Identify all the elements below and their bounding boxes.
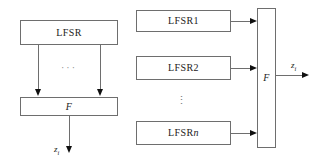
right-register-ellipsis: ⋮ xyxy=(176,95,187,106)
right-lfsr-label-n: LFSRn xyxy=(168,128,199,138)
right-lfsr-name-1: LFSR xyxy=(168,15,194,26)
right-feed-line-1 xyxy=(231,21,252,22)
right-output-line xyxy=(276,75,304,76)
left-output-label: zi xyxy=(54,145,59,156)
right-lfsr-box-n[interactable]: LFSRn xyxy=(136,121,231,145)
right-output-subscript: i xyxy=(295,65,297,72)
left-lfsr-box[interactable]: LFSR xyxy=(20,20,118,45)
right-lfsr-box-2[interactable]: LFSR2 xyxy=(136,56,231,80)
right-lfsr-box-1[interactable]: LFSR1 xyxy=(136,10,231,32)
diagram-canvas: LFSR ··· F zi LFSR1 LFSR2 xyxy=(0,0,320,166)
right-feed-arrowhead-n xyxy=(250,130,257,136)
right-output-arrowhead xyxy=(302,72,309,78)
left-tap-line-2 xyxy=(100,45,101,90)
left-lfsr-label: LFSR xyxy=(56,28,82,38)
right-output-label: zi xyxy=(291,61,296,72)
left-output-arrowhead xyxy=(66,146,72,153)
left-tap-arrowhead-1 xyxy=(35,89,41,96)
right-lfsr-name-2: LFSR xyxy=(168,62,194,73)
right-lfsr-index-2: 2 xyxy=(194,62,199,73)
left-output-line xyxy=(69,116,70,147)
right-combiner-label: F xyxy=(263,73,270,83)
left-combiner-box[interactable]: F xyxy=(20,97,118,116)
left-tap-ellipsis: ··· xyxy=(61,63,77,73)
right-lfsr-index-1: 1 xyxy=(194,15,199,26)
right-feed-arrowhead-2 xyxy=(250,65,257,71)
right-lfsr-label-2: LFSR2 xyxy=(168,63,199,73)
right-feed-arrowhead-1 xyxy=(250,18,257,24)
left-combiner-label: F xyxy=(66,102,73,112)
left-tap-line-1 xyxy=(38,45,39,90)
right-lfsr-label-1: LFSR1 xyxy=(168,16,199,26)
right-feed-line-n xyxy=(231,133,252,134)
right-combiner-box[interactable]: F xyxy=(257,8,276,148)
left-output-subscript: i xyxy=(58,149,60,156)
right-feed-line-2 xyxy=(231,68,252,69)
right-lfsr-index-n: n xyxy=(194,127,199,138)
right-lfsr-name-n: LFSR xyxy=(168,127,194,138)
left-tap-arrowhead-2 xyxy=(97,89,103,96)
